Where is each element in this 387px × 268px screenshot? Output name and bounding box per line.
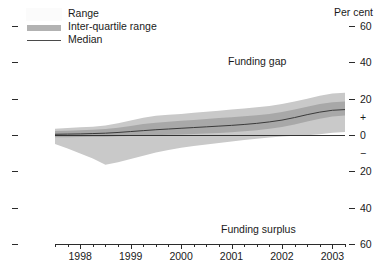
y-tick-left bbox=[12, 99, 18, 100]
y-sign-marker: + bbox=[360, 112, 366, 122]
x-tick-minor bbox=[55, 244, 56, 247]
x-tick-label: 1998 bbox=[60, 250, 100, 262]
y-tick-left bbox=[12, 62, 18, 63]
y-tick-right bbox=[349, 99, 355, 100]
x-tick-minor bbox=[68, 244, 69, 247]
y-tick-left bbox=[12, 244, 18, 245]
x-tick-minor bbox=[307, 244, 308, 247]
x-tick-major bbox=[332, 244, 333, 249]
x-tick-minor bbox=[143, 244, 144, 247]
x-tick-minor bbox=[105, 244, 106, 247]
x-tick-minor bbox=[257, 244, 258, 247]
y-tick-right bbox=[349, 208, 355, 209]
x-axis-line bbox=[55, 244, 345, 245]
x-tick-major bbox=[232, 244, 233, 249]
y-tick-label: 60 bbox=[360, 21, 372, 31]
y-tick-left bbox=[12, 135, 18, 136]
y-tick-right bbox=[349, 171, 355, 172]
y-tick-label: 40 bbox=[360, 57, 372, 67]
x-tick-minor bbox=[269, 244, 270, 247]
x-tick-major bbox=[282, 244, 283, 249]
x-tick-major bbox=[131, 244, 132, 249]
x-tick-label: 2002 bbox=[262, 250, 302, 262]
x-tick-minor bbox=[206, 244, 207, 247]
y-tick-left bbox=[12, 208, 18, 209]
y-tick-left bbox=[12, 171, 18, 172]
x-tick-minor bbox=[320, 244, 321, 247]
y-tick-left bbox=[12, 26, 18, 27]
x-tick-minor bbox=[118, 244, 119, 247]
range-swatch-icon bbox=[26, 8, 62, 21]
y-tick-label: 20 bbox=[360, 166, 372, 176]
x-tick-minor bbox=[345, 244, 346, 247]
y-sign-marker: − bbox=[360, 148, 366, 158]
plot-area bbox=[55, 26, 345, 244]
x-tick-minor bbox=[219, 244, 220, 247]
x-tick-minor bbox=[244, 244, 245, 247]
y-tick-label: 20 bbox=[360, 94, 372, 104]
y-tick-right bbox=[349, 244, 355, 245]
y-tick-label: 0 bbox=[360, 130, 366, 140]
y-tick-label: 40 bbox=[360, 203, 372, 213]
x-tick-major bbox=[181, 244, 182, 249]
x-tick-major bbox=[80, 244, 81, 249]
x-tick-minor bbox=[168, 244, 169, 247]
x-tick-minor bbox=[93, 244, 94, 247]
zero-reference-line bbox=[55, 135, 345, 136]
y-tick-right bbox=[349, 135, 355, 136]
x-tick-minor bbox=[194, 244, 195, 247]
x-tick-label: 1999 bbox=[111, 250, 151, 262]
y-axis-unit-label: Per cent bbox=[334, 6, 373, 18]
legend-label-range: Range bbox=[68, 7, 99, 20]
y-tick-label: 60 bbox=[360, 239, 372, 249]
x-tick-label: 2000 bbox=[161, 250, 201, 262]
chart-root: Range Inter-quartile range Median Per ce… bbox=[0, 0, 387, 268]
x-tick-label: 2001 bbox=[212, 250, 252, 262]
y-tick-right bbox=[349, 62, 355, 63]
x-tick-label: 2003 bbox=[312, 250, 352, 262]
y-tick-right bbox=[349, 26, 355, 27]
x-tick-minor bbox=[295, 244, 296, 247]
x-tick-minor bbox=[156, 244, 157, 247]
